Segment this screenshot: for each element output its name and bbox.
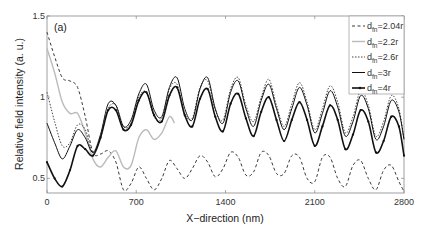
y-tick-label: 1.5: [32, 11, 45, 21]
y-tick-label: 1: [40, 92, 45, 102]
x-tick-label: 700: [129, 197, 144, 207]
x-tick-label: 2800: [394, 197, 414, 207]
figure: 07001400210028000.511.5 (a) X−direction …: [0, 0, 432, 231]
panel-label: (a): [54, 21, 67, 33]
x-tick-label: 1400: [215, 197, 235, 207]
legend: dfn=2.04rdfn=2.2rdfn=2.6rdfn=3rdfn=4r: [349, 16, 404, 95]
x-tick-label: 0: [44, 197, 49, 207]
y-axis-label: Relative field intensity (a. u.): [13, 38, 25, 170]
line-chart: 07001400210028000.511.5 (a) X−direction …: [0, 0, 432, 231]
series-d-fn-2-2r: [47, 49, 175, 169]
x-axis-label: X−direction (nm): [186, 212, 263, 224]
x-tick-label: 2100: [305, 197, 325, 207]
y-tick-label: 0.5: [32, 173, 45, 183]
